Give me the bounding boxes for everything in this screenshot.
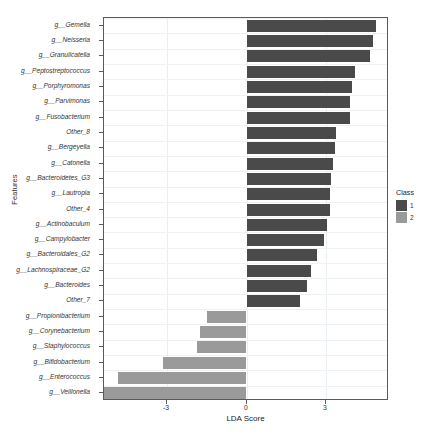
- horizontal-gridline: [104, 217, 387, 218]
- bar: [247, 204, 330, 216]
- bar: [247, 219, 327, 231]
- x-axis-title: LDA Score: [103, 414, 388, 423]
- y-axis-tick-label: g__Neisseria: [52, 36, 90, 44]
- lda-score-chart: Features g__Gemellag__Neisseriag__Granul…: [0, 0, 436, 434]
- y-axis-tick-label: g__Parvimonas: [44, 97, 90, 105]
- horizontal-gridline: [104, 263, 387, 264]
- y-axis-tick-mark: [99, 86, 103, 87]
- bar: [247, 188, 331, 200]
- legend-entries: 12: [396, 200, 436, 223]
- y-axis-tick-label: g__Actinobaculum: [36, 220, 90, 228]
- horizontal-gridline: [104, 370, 387, 371]
- bar: [247, 158, 333, 170]
- bar: [247, 127, 336, 139]
- y-axis-tick-mark: [99, 239, 103, 240]
- bar: [247, 96, 351, 108]
- horizontal-gridline: [104, 248, 387, 249]
- y-axis-tick-mark: [99, 392, 103, 393]
- y-axis-tick-label: g__Campylobacter: [35, 235, 90, 243]
- y-axis-tick-label: g__Lautropia: [52, 189, 91, 197]
- plot-area: [103, 17, 388, 400]
- bar: [197, 341, 247, 353]
- y-axis-tick-label: Other_4: [66, 205, 90, 213]
- vertical-gridline: [167, 18, 168, 399]
- bar: [247, 295, 300, 307]
- y-axis-tick-label: g__Veillonella: [49, 388, 90, 396]
- y-axis-tick-label: g__Bergeyella: [48, 143, 90, 151]
- horizontal-gridline: [104, 125, 387, 126]
- y-axis-tick-mark: [99, 224, 103, 225]
- y-axis-tick-label: g__Bifidobacterium: [34, 358, 90, 366]
- bar: [247, 112, 351, 124]
- horizontal-gridline: [104, 202, 387, 203]
- x-axis-tick-label: -3: [151, 404, 181, 411]
- y-axis-tick-mark: [99, 101, 103, 102]
- legend-entry: 1: [396, 200, 436, 211]
- y-axis-tick-mark: [99, 285, 103, 286]
- y-axis-tick-mark: [99, 316, 103, 317]
- bar: [247, 81, 353, 93]
- bar: [247, 173, 332, 185]
- horizontal-gridline: [104, 324, 387, 325]
- bar: [104, 387, 246, 399]
- horizontal-gridline: [104, 156, 387, 157]
- y-axis-tick-label: g__Porphyromonas: [32, 82, 90, 90]
- y-axis-tick-mark: [99, 25, 103, 26]
- horizontal-gridline: [104, 141, 387, 142]
- legend-label: 2: [410, 214, 414, 221]
- y-axis-tick-mark: [99, 71, 103, 72]
- bar: [247, 20, 377, 32]
- legend: Class 12: [396, 188, 436, 224]
- y-axis-tick-label: g__Staphylococcus: [33, 342, 90, 350]
- bar: [247, 142, 335, 154]
- y-axis-tick-mark: [99, 117, 103, 118]
- y-axis-tick-mark: [99, 346, 103, 347]
- y-axis-tick-label: g__Bacteroidales_G2: [27, 250, 90, 258]
- y-axis-tick-mark: [99, 163, 103, 164]
- x-axis-tick-label: 3: [310, 404, 340, 411]
- y-axis-tick-label: g__Peptostreptococcus: [21, 67, 90, 75]
- bar: [247, 50, 370, 62]
- bar: [247, 280, 307, 292]
- y-axis-tick-mark: [99, 270, 103, 271]
- y-axis-tick-mark: [99, 193, 103, 194]
- y-axis-tick-label: g__Corynebacterium: [29, 327, 90, 335]
- horizontal-gridline: [104, 79, 387, 80]
- bar: [207, 311, 246, 323]
- y-axis-tick-label: Other_7: [66, 296, 90, 304]
- legend-entry: 2: [396, 212, 436, 223]
- bar: [247, 265, 311, 277]
- bar: [247, 66, 356, 78]
- bar: [118, 372, 247, 384]
- y-axis-tick-mark: [99, 209, 103, 210]
- y-axis-tick-mark: [99, 132, 103, 133]
- y-axis-tick-label: g__Catonella: [51, 159, 90, 167]
- horizontal-gridline: [104, 278, 387, 279]
- y-axis-tick-mark: [99, 362, 103, 363]
- x-axis-tick-label: 0: [231, 404, 261, 411]
- legend-swatch: [396, 212, 407, 223]
- y-axis-tick-label: g__Fusobacterium: [35, 113, 90, 121]
- y-axis-tick-label: g__Lachnospiraceae_G2: [16, 266, 90, 274]
- bar: [247, 35, 374, 47]
- bar: [200, 326, 247, 338]
- y-axis-tick-mark: [99, 147, 103, 148]
- y-axis-tick-label: g__Bacteroidetes_G3: [26, 174, 90, 182]
- y-axis-tick-mark: [99, 55, 103, 56]
- legend-swatch: [396, 200, 407, 211]
- bar: [163, 357, 246, 369]
- y-axis-tick-mark: [99, 300, 103, 301]
- y-axis-tick-mark: [99, 377, 103, 378]
- horizontal-gridline: [104, 171, 387, 172]
- horizontal-gridline: [104, 187, 387, 188]
- bar: [247, 234, 325, 246]
- y-axis-tick-label: g__Granulicatella: [39, 51, 90, 59]
- y-axis-tick-mark: [99, 331, 103, 332]
- y-axis-tick-label: g__Bacteroides: [44, 281, 90, 289]
- bar: [247, 249, 318, 261]
- legend-label: 1: [410, 202, 414, 209]
- y-axis-tick-mark: [99, 178, 103, 179]
- legend-title: Class: [396, 188, 436, 197]
- horizontal-gridline: [104, 232, 387, 233]
- y-axis-tick-mark: [99, 254, 103, 255]
